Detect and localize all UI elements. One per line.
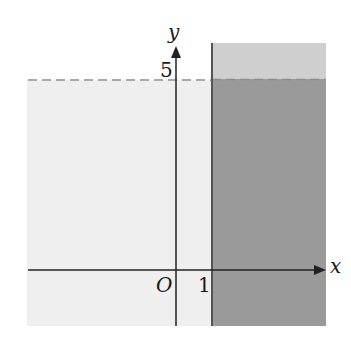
graph-canvas [0,0,351,348]
origin-label: O [156,275,172,295]
left-region [27,80,212,326]
x-tick-label-1: 1 [198,275,211,295]
right-top-region [212,43,326,80]
x-axis-label: x [330,256,341,276]
y-tick-label-5: 5 [160,60,173,80]
graph-figure: y 5 x O 1 [0,0,351,348]
right-dark-region [212,79,326,326]
y-axis-label: y [168,22,179,42]
y-axis-arrow-icon [171,46,181,58]
